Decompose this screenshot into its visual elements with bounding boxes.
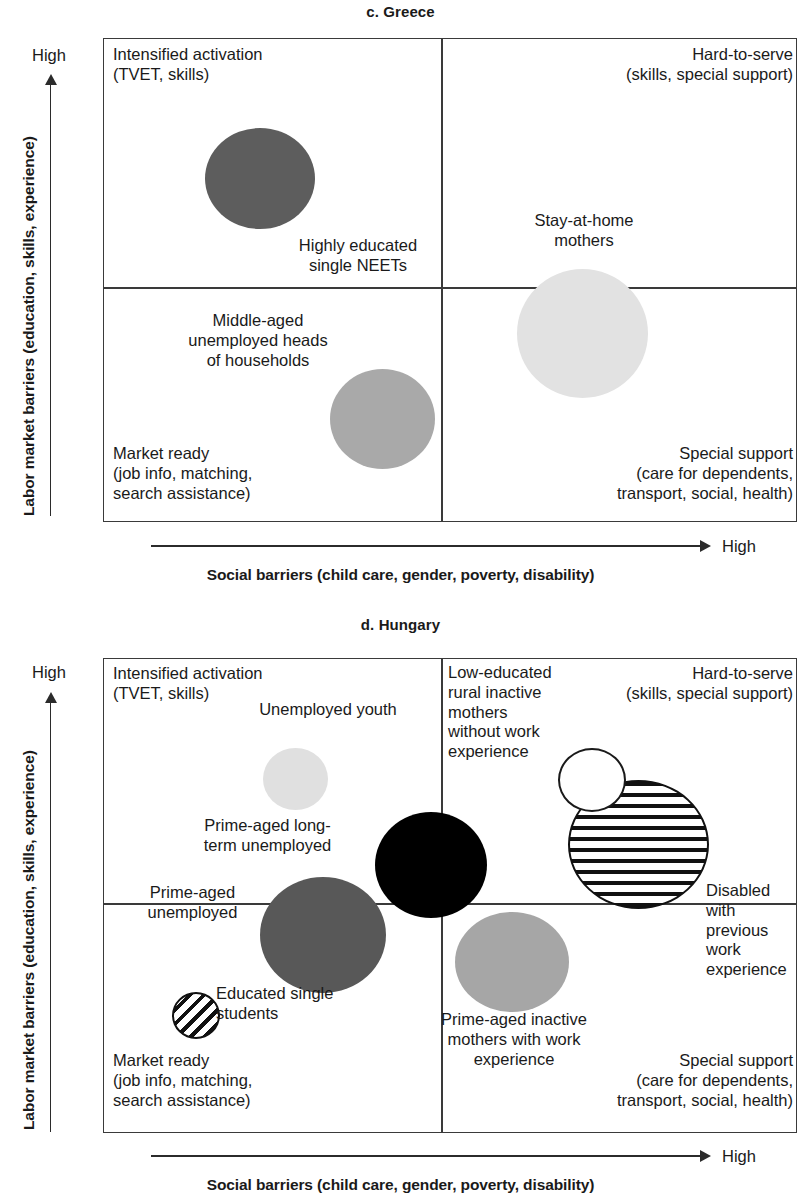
y-axis-label-hungary: Labor market barriers (education, skills…	[20, 750, 38, 1130]
x-axis-arrow-greece	[151, 540, 711, 552]
bubble-prime-aged-unemployed	[260, 877, 386, 993]
bubble-label-prime-aged-unemployed: Prime-aged unemployed	[120, 883, 265, 923]
bubble-label-highly-educated-single-neets: Highly educated single NEETs	[258, 236, 458, 276]
bubble-label-prime-aged-inactive-mothers: Prime-aged inactive mothers with work ex…	[399, 1010, 629, 1069]
x-axis-arrow-hungary	[151, 1150, 711, 1162]
x-axis-label-hungary: Social barriers (child care, gender, pov…	[0, 1176, 801, 1194]
bubble-label-stay-at-home-mothers: Stay-at-home mothers	[489, 211, 679, 251]
bubble-middle-aged-unemployed-heads	[330, 369, 435, 469]
quadrant-label-top-left-hungary: Intensified activation (TVET, skills)	[113, 663, 263, 703]
bubble-highly-educated-single-neets	[205, 128, 315, 229]
bubble-prime-aged-long-term-unemployed	[375, 812, 487, 918]
y-axis-high-label-greece: High	[32, 46, 66, 65]
y-axis-arrow-hungary	[44, 692, 58, 1132]
quadrant-label-top-left-greece: Intensified activation (TVET, skills)	[113, 44, 263, 84]
y-axis-high-label-hungary: High	[32, 663, 66, 682]
bubble-label-prime-aged-long-term-unemployed: Prime-aged long- term unemployed	[160, 816, 375, 856]
bubble-unemployed-youth	[263, 748, 328, 810]
x-axis-high-label-greece: High	[722, 537, 756, 556]
bubble-label-educated-single-students: Educated single students	[216, 984, 386, 1024]
bubble-label-unemployed-youth: Unemployed youth	[218, 700, 438, 720]
quadrant-label-bottom-left-greece: Market ready (job info, matching, search…	[113, 443, 252, 503]
panel-title-greece: c. Greece	[0, 3, 801, 20]
quadrant-label-bottom-left-hungary: Market ready (job info, matching, search…	[113, 1050, 252, 1110]
y-axis-label-greece: Labor market barriers (education, skills…	[20, 136, 38, 516]
y-axis-arrow-greece	[44, 74, 58, 516]
bubble-educated-single-students	[172, 992, 220, 1039]
quadrant-label-bottom-right-greece: Special support (care for dependents, tr…	[373, 443, 793, 503]
bubble-prime-aged-inactive-mothers	[455, 912, 569, 1012]
chart-panel-hungary: d. Hungary Labor market barriers (educat…	[0, 600, 801, 1203]
bubble-label-low-educated-rural-inactive-mothers: Low-educated rural inactive mothers with…	[448, 663, 573, 762]
chart-panel-greece: c. Greece Labor market barriers (educati…	[0, 0, 801, 600]
bubble-label-disabled-with-previous-work-experience: Disabled with previous work experience	[706, 881, 796, 980]
bubble-label-middle-aged-unemployed-heads: Middle-aged unemployed heads of househol…	[140, 311, 376, 370]
bubble-stay-at-home-mothers	[517, 269, 648, 398]
x-axis-high-label-hungary: High	[722, 1147, 756, 1166]
panel-title-hungary: d. Hungary	[0, 616, 801, 633]
quadrant-label-top-right-greece: Hard-to-serve (skills, special support)	[373, 44, 793, 84]
quadrant-divider-horizontal-greece	[103, 287, 797, 289]
x-axis-label-greece: Social barriers (child care, gender, pov…	[0, 566, 801, 584]
